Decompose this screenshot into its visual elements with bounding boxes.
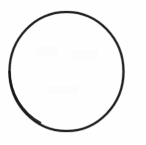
circle-figure-svg	[0, 0, 146, 145]
figure-canvas	[0, 0, 146, 145]
